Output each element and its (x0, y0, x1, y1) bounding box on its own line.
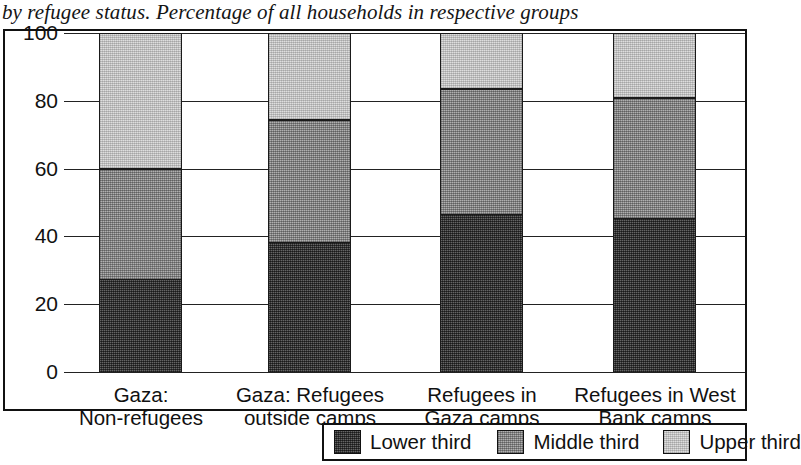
lower-third-swatch-icon (334, 430, 361, 454)
bar-segment-middle-third[interactable] (99, 169, 182, 279)
category-label-gaza-non-refugees: Gaza: Non-refugees (46, 383, 236, 429)
bar-segment-upper-third[interactable] (268, 33, 351, 120)
category-label-line-1: Refugees in (387, 383, 577, 406)
y-tick-0: 0 (46, 361, 58, 382)
bar-segment-upper-third[interactable] (99, 33, 182, 169)
bar-segment-middle-third[interactable] (440, 89, 523, 214)
y-tick-100: 100 (23, 22, 58, 43)
chart-legend: Lower third Middle third Upper third (322, 423, 747, 461)
bar-segment-upper-third[interactable] (613, 33, 696, 98)
bar-segment-middle-third[interactable] (268, 120, 351, 242)
bar-segment-lower-third[interactable] (268, 242, 351, 373)
category-label-line-1: Refugees in West (560, 383, 750, 406)
bar-segment-lower-third[interactable] (613, 218, 696, 372)
middle-third-swatch-icon (497, 430, 524, 454)
legend-item-middle-third[interactable]: Middle third (497, 430, 639, 454)
y-axis-labels: 100 80 60 40 20 0 (0, 33, 58, 372)
legend-item-upper-third[interactable]: Upper third (663, 430, 800, 454)
upper-third-swatch-icon (663, 430, 690, 454)
legend-item-lower-third[interactable]: Lower third (334, 430, 471, 454)
category-label-line-1: Gaza: Refugees (215, 383, 405, 406)
bar-segment-upper-third[interactable] (440, 33, 523, 89)
category-label-line-2: Non-refugees (46, 406, 236, 429)
chart-caption: by refugee status. Percentage of all hou… (2, 0, 752, 28)
legend-label-lower-third: Lower third (370, 431, 471, 453)
y-tick-20: 20 (35, 293, 58, 314)
category-label-line-1: Gaza: (46, 383, 236, 406)
plot-area (64, 33, 745, 372)
y-tick-40: 40 (35, 225, 58, 246)
bar-segment-lower-third[interactable] (440, 214, 523, 372)
gridline-0 (64, 372, 745, 373)
bar-segment-lower-third[interactable] (99, 279, 182, 372)
bar-segment-middle-third[interactable] (613, 98, 696, 218)
legend-label-middle-third: Middle third (533, 431, 639, 453)
legend-label-upper-third: Upper third (699, 431, 800, 453)
y-tick-80: 80 (35, 90, 58, 111)
y-tick-60: 60 (35, 158, 58, 179)
